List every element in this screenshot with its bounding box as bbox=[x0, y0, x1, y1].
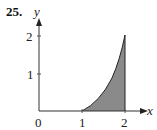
y-tick-label-2: 2 bbox=[26, 29, 33, 44]
x-tick-label-2: 2 bbox=[121, 115, 128, 130]
y-axis-arrow-icon bbox=[36, 18, 42, 26]
x-axis-label: x bbox=[146, 103, 153, 118]
x-tick-label-1: 1 bbox=[79, 115, 86, 130]
shaded-region bbox=[82, 35, 125, 111]
graph: y x 2 1 0 1 2 bbox=[0, 0, 157, 130]
x-tick-label-0: 0 bbox=[35, 115, 42, 130]
y-tick-label-1: 1 bbox=[27, 67, 34, 82]
y-axis-label: y bbox=[32, 4, 40, 19]
